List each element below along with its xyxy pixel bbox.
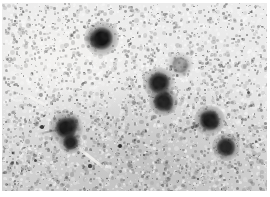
- spot-left-small: [59, 131, 82, 154]
- micrograph-figure: [0, 0, 270, 197]
- spot-right-lower-lobe: [222, 139, 226, 143]
- spot-mid-center-lower-lobe: [155, 99, 164, 108]
- spot-left-small-lobe: [69, 143, 74, 148]
- fleck-b: [40, 125, 44, 129]
- spot-right-upper-lobe: [200, 112, 207, 119]
- fleck-f: [247, 91, 250, 94]
- spot-top-center-lobe: [101, 30, 110, 39]
- spot-left-large-lobe: [71, 122, 79, 130]
- emulsion-grain-layer-3: [2, 3, 267, 191]
- micrograph-plate: [2, 3, 267, 191]
- fleck-c: [34, 159, 37, 162]
- spot-top-center-lobe: [92, 41, 100, 49]
- spot-mid-center-lower-lobe: [163, 100, 173, 110]
- fleck-d: [88, 164, 91, 167]
- spot-mid-center-upper-lobe: [158, 75, 167, 84]
